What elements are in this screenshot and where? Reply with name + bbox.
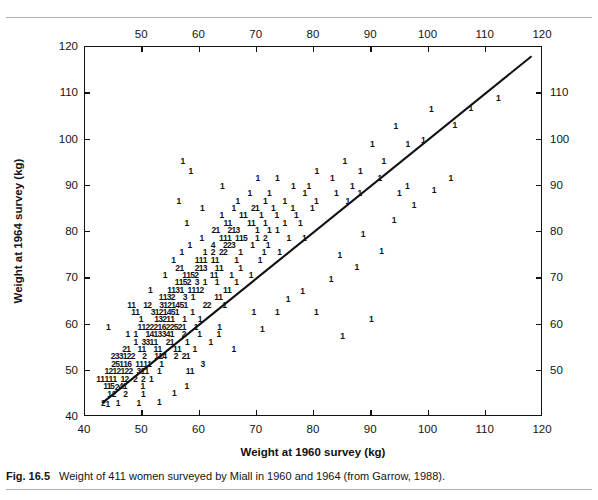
x-tick	[141, 410, 142, 416]
figure-16-5: 2111112211115241111111112221121212231111…	[0, 0, 598, 500]
data-point: 1	[172, 389, 177, 398]
data-point: 1	[392, 216, 397, 225]
x-tick-top-label: 90	[364, 28, 377, 40]
data-point: 1	[185, 219, 190, 228]
plot-frame: 2111112211115241111111112221121212231111…	[84, 46, 542, 416]
data-point: 3	[235, 226, 240, 235]
y-tick-right-label: 70	[550, 271, 563, 283]
y-tick-right	[536, 324, 542, 325]
x-tick	[428, 410, 429, 416]
data-point: 1	[235, 196, 240, 205]
data-point: 1	[277, 248, 282, 257]
y-tick-right	[536, 370, 542, 371]
data-point: 1	[369, 315, 374, 324]
x-tick-top	[370, 46, 371, 52]
data-point: 1	[361, 230, 366, 239]
y-tick	[84, 92, 90, 93]
data-point: 1	[302, 233, 307, 242]
x-tick-top-label: 110	[476, 28, 494, 40]
data-point: 1	[185, 381, 190, 390]
data-point: 1	[412, 201, 417, 210]
data-point: 1	[171, 256, 176, 265]
y-tick-right-label: 100	[550, 133, 569, 145]
x-tick-top-label: 120	[532, 28, 551, 40]
data-point: 1	[217, 323, 222, 332]
data-point: 1	[381, 157, 386, 166]
data-point: 1	[148, 286, 153, 295]
data-point: 1	[329, 275, 334, 284]
y-tick-label: 80	[50, 225, 78, 237]
data-point: 1	[181, 157, 186, 166]
x-tick-label: 50	[135, 423, 148, 435]
data-point: 4	[211, 241, 216, 250]
y-tick	[84, 370, 90, 371]
data-point: 1	[190, 367, 195, 376]
data-point: 2	[131, 352, 136, 361]
data-point: 1	[227, 286, 232, 295]
data-point: 1	[131, 300, 136, 309]
data-point: 1	[496, 94, 501, 103]
data-point: 1	[234, 278, 239, 287]
x-tick-top	[428, 46, 429, 52]
data-point: 1	[282, 196, 287, 205]
data-point: 3	[201, 360, 206, 369]
data-point: 1	[248, 189, 253, 198]
data-point: 1	[106, 399, 111, 408]
y-tick-right	[536, 139, 542, 140]
y-tick-right-label: 110	[550, 86, 568, 98]
data-point: 1	[379, 246, 384, 255]
data-point: 1	[334, 189, 339, 198]
data-point: 1	[300, 286, 305, 295]
data-point: 1	[370, 140, 375, 149]
data-point: 1	[238, 263, 243, 272]
y-tick-label: 70	[50, 271, 78, 283]
data-point: 1	[219, 211, 224, 220]
y-tick	[84, 277, 90, 278]
data-point: 1	[405, 182, 410, 191]
data-point: 1	[227, 219, 232, 228]
y-tick-right-label: 90	[550, 179, 563, 191]
data-point: 1	[343, 157, 348, 166]
y-tick-label: 110	[50, 86, 78, 98]
data-point: 1	[229, 271, 234, 280]
data-point: 1	[377, 174, 382, 183]
data-point: 1	[260, 325, 265, 334]
data-point: 1	[345, 196, 350, 205]
x-tick	[485, 410, 486, 416]
y-tick-right-label: 50	[550, 364, 563, 376]
data-point: 1	[314, 196, 319, 205]
y-tick-right	[536, 185, 542, 186]
data-point: 1	[163, 271, 168, 280]
x-tick-top	[141, 46, 142, 52]
x-tick-top-label: 70	[249, 28, 262, 40]
data-point: 1	[193, 345, 198, 354]
data-point: 1	[220, 182, 225, 191]
data-point: 1	[177, 196, 182, 205]
data-point: 1	[337, 251, 342, 260]
data-point: 1	[179, 248, 184, 257]
x-tick-label: 60	[192, 423, 205, 435]
data-point: 1	[179, 263, 184, 272]
data-point: 1	[255, 204, 260, 213]
data-point: 5	[243, 233, 248, 242]
data-point: 2	[147, 300, 152, 309]
data-point: 1	[200, 204, 205, 213]
data-point: 1	[290, 204, 295, 213]
y-tick	[84, 139, 90, 140]
data-point: 1	[141, 390, 146, 399]
data-point: 1	[393, 121, 398, 130]
data-point: 1	[157, 398, 162, 407]
y-tick	[84, 231, 90, 232]
data-point: 1	[243, 211, 248, 220]
data-point: 1	[238, 248, 243, 257]
y-tick-label: 100	[50, 133, 78, 145]
y-tick-label: 90	[50, 179, 78, 191]
data-point: 1	[252, 307, 257, 316]
data-point: 1	[286, 295, 291, 304]
x-axis-title: Weight at 1960 survey (kg)	[84, 446, 542, 458]
x-tick-label: 80	[307, 423, 320, 435]
data-point: 1	[432, 186, 437, 195]
data-point: 1	[275, 226, 280, 235]
data-point: 1	[314, 307, 319, 316]
data-point: 1	[106, 323, 111, 332]
